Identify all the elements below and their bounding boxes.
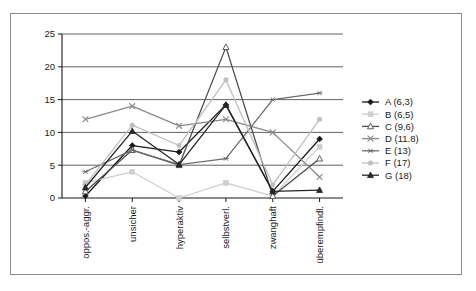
y-tick-label: 15 bbox=[44, 94, 55, 105]
data-point-marker bbox=[368, 149, 374, 153]
chart-legend: A (6,3)B (6,5)C (9,6)D (11.8)E (13)F (17… bbox=[362, 96, 419, 180]
series-line bbox=[85, 47, 319, 196]
data-point-marker bbox=[223, 44, 229, 50]
y-tick-label: 5 bbox=[50, 160, 55, 171]
series-7 bbox=[82, 102, 322, 194]
series-2 bbox=[83, 144, 322, 200]
data-point-marker bbox=[317, 117, 322, 122]
data-point-marker bbox=[368, 112, 373, 117]
data-point-marker bbox=[317, 174, 323, 180]
data-point-marker bbox=[177, 196, 182, 201]
data-point-marker bbox=[82, 170, 88, 174]
legend-label: G (18) bbox=[385, 170, 412, 181]
legend-item-3[interactable]: C (9,6) bbox=[362, 121, 414, 132]
legend-item-4[interactable]: D (11.8) bbox=[362, 133, 419, 144]
x-tick-label: oppos.-aggr. bbox=[80, 206, 91, 259]
series-4 bbox=[83, 103, 323, 180]
data-point-marker bbox=[130, 169, 135, 174]
legend-item-7[interactable]: G (18) bbox=[362, 170, 412, 181]
legend-label: E (13) bbox=[385, 145, 411, 156]
y-tick-label: 20 bbox=[44, 61, 55, 72]
legend-label: F (17) bbox=[385, 157, 410, 168]
legend-item-2[interactable]: B (6,5) bbox=[362, 109, 414, 120]
y-tick-label: 25 bbox=[44, 28, 55, 39]
data-point-marker bbox=[317, 91, 323, 95]
x-tick-label: überempfindl. bbox=[314, 206, 325, 264]
data-point-marker bbox=[317, 155, 323, 161]
data-point-marker bbox=[177, 143, 182, 148]
data-point-marker bbox=[130, 123, 135, 128]
data-point-marker bbox=[223, 157, 229, 161]
series-line bbox=[85, 147, 319, 198]
line-chart: 0510152025 oppos.-aggr.unsicherhyperakti… bbox=[0, 0, 476, 291]
y-tick-label: 10 bbox=[44, 127, 55, 138]
legend-label: A (6,3) bbox=[385, 96, 413, 107]
y-axis-ticks: 0510152025 bbox=[44, 28, 62, 203]
data-point-marker bbox=[317, 144, 322, 149]
legend-item-1[interactable]: A (6,3) bbox=[362, 96, 413, 107]
y-tick-label: 0 bbox=[50, 192, 55, 203]
legend-item-6[interactable]: F (17) bbox=[362, 157, 410, 168]
legend-label: B (6,5) bbox=[385, 109, 414, 120]
legend-label: C (9,6) bbox=[385, 121, 414, 132]
data-point-marker bbox=[224, 181, 229, 186]
series-layer bbox=[82, 44, 322, 200]
x-tick-label: hyperaktiv bbox=[174, 206, 185, 250]
series-line bbox=[85, 105, 319, 196]
x-tick-label: selbstverl. bbox=[220, 206, 231, 249]
legend-label: D (11.8) bbox=[385, 133, 419, 144]
data-point-marker bbox=[368, 161, 373, 166]
x-axis-ticks: oppos.-aggr.unsicherhyperaktivselbstverl… bbox=[80, 198, 325, 264]
x-tick-label: unsicher bbox=[127, 206, 138, 242]
x-tick-label: zwanghaft bbox=[267, 206, 278, 250]
data-point-marker bbox=[224, 78, 229, 83]
data-point-marker bbox=[270, 183, 275, 188]
chart-figure: 0510152025 oppos.-aggr.unsicherhyperakti… bbox=[0, 0, 476, 291]
data-point-marker bbox=[368, 99, 374, 105]
legend-item-5[interactable]: E (13) bbox=[362, 145, 411, 156]
data-point-marker bbox=[270, 98, 276, 102]
series-line bbox=[85, 106, 319, 177]
